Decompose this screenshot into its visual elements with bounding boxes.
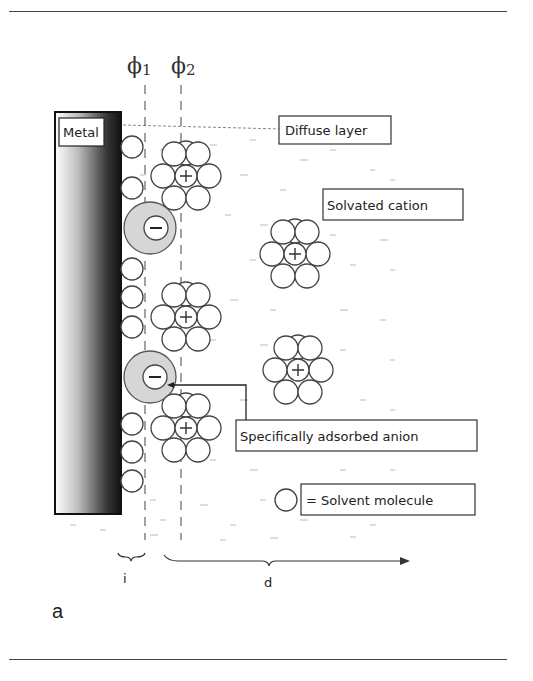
- distance-arrowhead: [400, 557, 410, 565]
- solvent-molecule-legend-icon: [275, 489, 297, 511]
- diffuse-layer-boundary: [123, 125, 282, 129]
- solvated-cation-ohp-1: [151, 141, 221, 210]
- panel-label: a: [52, 600, 63, 623]
- inner-layer-brace: [118, 553, 145, 561]
- diffuse-region-label: d: [264, 575, 272, 590]
- solvated-cation-diffuse-1: [260, 219, 330, 288]
- phi2-label: ϕ2: [171, 53, 196, 79]
- metal-electrode: [55, 112, 121, 514]
- adsorbed-anion-1: [124, 202, 176, 254]
- phi1-label: ϕ1: [127, 53, 152, 79]
- adsorbed-solvent-layer: [121, 136, 143, 492]
- solvated-cation-label: Solvated cation: [327, 198, 428, 213]
- inner-layer-label: i: [123, 571, 127, 586]
- solvated-cation-ohp-3: [151, 393, 221, 462]
- specifically-adsorbed-anion-label: Specifically adsorbed anion: [240, 429, 419, 444]
- solvated-cation-diffuse-2: [263, 335, 333, 404]
- diffuse-region-brace: [164, 555, 401, 566]
- solvated-cation-ohp-2: [151, 282, 221, 351]
- double-layer-diagram: ϕ1 ϕ2 Metal Diffuse layer Solvated catio…: [0, 0, 533, 681]
- diffuse-layer-label: Diffuse layer: [285, 123, 368, 138]
- metal-label: Metal: [63, 125, 99, 140]
- solvent-molecule-legend-label: = Solvent molecule: [306, 493, 433, 508]
